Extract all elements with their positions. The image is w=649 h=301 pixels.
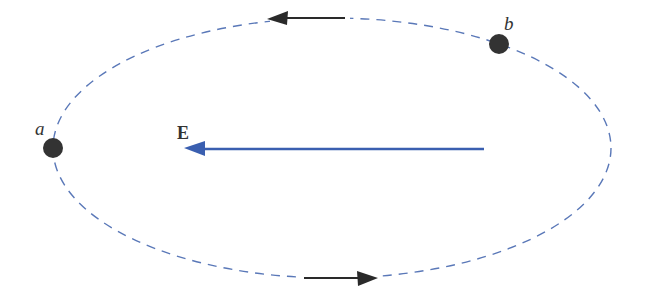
orbit-direction-arrow-bottom: [300, 271, 382, 286]
field-label: E: [177, 123, 189, 144]
point-b-marker: [489, 34, 509, 54]
orbit-direction-arrow-top: [267, 11, 350, 25]
electric-field-arrow: [184, 141, 484, 156]
point-a-label: a: [35, 118, 45, 140]
point-b-label: b: [504, 13, 514, 35]
orbit-diagram: [0, 0, 649, 301]
point-a-marker: [43, 138, 63, 158]
